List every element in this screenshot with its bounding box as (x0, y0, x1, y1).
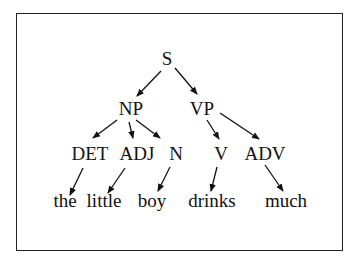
edge-np-to-n-arrow (136, 120, 160, 138)
node-VP: VP (190, 98, 214, 119)
node-V: V (214, 143, 228, 164)
edge-s-to-np-arrow (137, 71, 161, 96)
word-drinks: drinks (188, 190, 236, 211)
edge-np-to-det-arrow (93, 120, 117, 138)
node-NP: NP (119, 98, 143, 119)
edge-n-to-boy-arrow (158, 167, 170, 191)
edge-np-to-adj-arrow (129, 122, 133, 138)
word-little: little (87, 190, 122, 211)
node-ADV: ADV (244, 143, 285, 164)
edge-v-to-drinks-arrow (211, 167, 217, 191)
parse-tree: S NP VP DET ADJ N V ADV the little boy d… (0, 0, 363, 264)
edge-s-to-vp-arrow (175, 68, 197, 94)
labels-group: S NP VP DET ADJ N V ADV the little boy d… (53, 48, 307, 211)
edges-group (70, 68, 283, 195)
edge-vp-to-adv-arrow (220, 113, 259, 139)
word-much: much (265, 190, 308, 211)
edge-vp-to-v-arrow (207, 120, 219, 139)
node-N: N (169, 143, 183, 164)
word-the: the (53, 190, 76, 211)
node-S: S (162, 48, 173, 69)
node-ADJ: ADJ (120, 143, 155, 164)
node-DET: DET (72, 143, 109, 164)
edge-adv-to-much-arrow (265, 165, 283, 191)
word-boy: boy (138, 190, 167, 211)
